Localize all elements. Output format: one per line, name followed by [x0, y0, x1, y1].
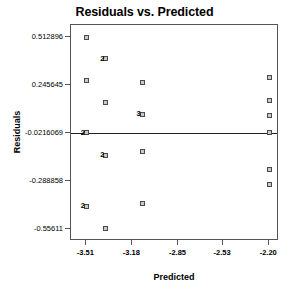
plot-area: 22223 [70, 24, 278, 240]
x-axis-tick-label: -3.18 [123, 248, 140, 257]
zero-reference-line [71, 133, 277, 134]
x-axis-tick-label: -2.53 [214, 248, 231, 257]
data-point [267, 167, 272, 172]
data-point [84, 78, 89, 83]
x-axis-tick-mark [85, 240, 86, 245]
data-point [267, 75, 272, 80]
data-point-count-label: 2 [100, 152, 105, 160]
y-axis-tick-label: -0.288858 [29, 175, 63, 184]
y-axis-label-container: Residuals [8, 24, 9, 240]
data-point-count-label: 2 [81, 129, 86, 137]
y-axis-tick-mark [65, 180, 70, 181]
y-axis-tick-mark [65, 132, 70, 133]
y-axis-tick-label: -0.55611 [34, 223, 63, 232]
data-point [267, 113, 272, 118]
x-axis-tick-mark [177, 240, 178, 245]
data-point [267, 98, 272, 103]
y-axis-tick-label: 0.512896 [32, 32, 63, 41]
data-point [267, 182, 272, 187]
y-axis-tick-mark [65, 228, 70, 229]
data-point [103, 226, 108, 231]
data-point-count-label: 2 [100, 55, 105, 63]
data-point-count-label: 2 [81, 202, 86, 210]
data-point [140, 201, 145, 206]
data-point-count-label: 3 [137, 110, 142, 118]
y-axis-tick-mark [65, 84, 70, 85]
data-point [103, 100, 108, 105]
x-axis-tick-mark [131, 240, 132, 245]
data-point [140, 149, 145, 154]
data-point [84, 35, 89, 40]
data-point [267, 130, 272, 135]
x-axis-tick-mark [222, 240, 223, 245]
residuals-vs-predicted-chart: Residuals vs. Predicted Residuals 22223 … [0, 0, 289, 293]
x-axis-label: Predicted [70, 272, 278, 282]
y-axis-label: Residuals [12, 92, 22, 172]
x-axis-tick-label: -2.20 [260, 248, 277, 257]
chart-title: Residuals vs. Predicted [0, 5, 289, 19]
y-axis-tick-mark [65, 36, 70, 37]
data-point [140, 80, 145, 85]
x-axis-tick-mark [268, 240, 269, 245]
y-axis-tick-label: 0.245645 [32, 79, 63, 88]
x-axis-tick-label: -3.51 [77, 248, 94, 257]
y-axis-tick-label: -0.0216069 [25, 127, 63, 136]
x-axis-tick-label: -2.85 [169, 248, 186, 257]
